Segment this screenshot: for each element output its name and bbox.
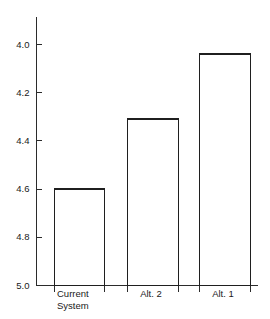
category-label: Alt. 2 bbox=[140, 288, 162, 299]
y-axis-tick-label: 4.4 bbox=[16, 135, 29, 146]
category-label: CurrentSystem bbox=[57, 288, 89, 311]
y-axis-tick-label: 4.8 bbox=[16, 231, 29, 242]
y-axis-tick-label: 4.6 bbox=[16, 183, 29, 194]
chart-canvas: 4.04.24.44.64.85.0 CurrentSystemAlt. 2Al… bbox=[0, 0, 270, 319]
y-axis-ticks bbox=[37, 45, 42, 286]
y-axis-tick-label: 5.0 bbox=[16, 280, 29, 291]
bar-chart: 4.04.24.44.64.85.0 CurrentSystemAlt. 2Al… bbox=[0, 0, 270, 319]
y-axis-tick-label: 4.2 bbox=[16, 87, 29, 98]
y-axis-tick-label: 4.0 bbox=[16, 39, 29, 50]
bar bbox=[55, 189, 105, 285]
y-axis-tick-labels: 4.04.24.44.64.85.0 bbox=[16, 39, 29, 291]
bar bbox=[200, 54, 251, 285]
category-labels: CurrentSystemAlt. 2Alt. 1 bbox=[57, 288, 234, 311]
bar-series bbox=[55, 54, 251, 285]
category-label: Alt. 1 bbox=[212, 288, 234, 299]
bar bbox=[128, 119, 179, 285]
